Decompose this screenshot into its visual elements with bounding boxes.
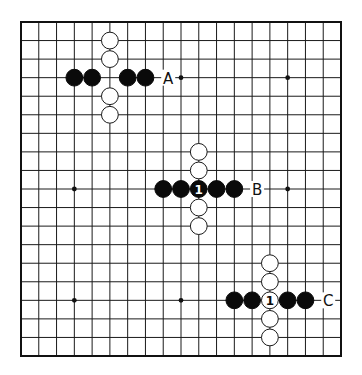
position-label-a: A [163,70,174,88]
black-stone [137,69,154,86]
go-board-diagram: ABC 11 [0,0,362,375]
white-stone [190,218,207,235]
star-point [285,75,290,80]
black-stone [155,181,172,198]
star-point [72,187,77,192]
star-point [285,187,290,192]
white-stone [190,199,207,216]
white-stone [190,143,207,160]
black-stone [208,181,225,198]
position-label-c: C [323,292,333,310]
star-point [179,75,184,80]
black-stone [244,292,261,309]
white-stone [101,51,118,68]
black-stone [279,292,296,309]
black-stone [173,181,190,198]
position-label-b: B [252,181,262,199]
white-stone [261,310,278,327]
white-stone [261,329,278,346]
white-stone [101,106,118,123]
star-point [179,298,184,303]
black-stone [226,181,243,198]
white-stone [261,255,278,272]
black-stone [119,69,136,86]
white-stone [190,162,207,179]
move-number: 1 [266,294,274,308]
black-stone [226,292,243,309]
move-number: 1 [195,183,203,197]
black-stone [297,292,314,309]
black-stone [66,69,83,86]
black-stone [84,69,101,86]
star-point [72,298,77,303]
white-stone [101,32,118,49]
white-stone [261,273,278,290]
white-stone [101,88,118,105]
